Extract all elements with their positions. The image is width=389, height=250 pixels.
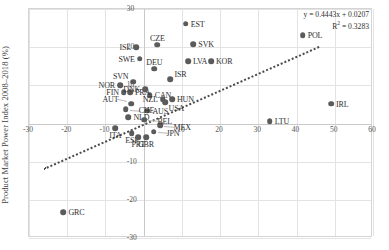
x-axis [29, 124, 371, 125]
x-tick-label: -10 [99, 125, 109, 134]
data-point[interactable] [160, 96, 166, 102]
y-tick-label: 20 [127, 42, 135, 51]
trendline-r2: R2 = 0.3283 [332, 20, 369, 31]
point-label: SWE [118, 54, 134, 63]
x-tick-label: 10 [177, 125, 185, 134]
point-label: GBR [138, 140, 154, 149]
x-tick-label: 40 [292, 125, 300, 134]
data-point[interactable] [155, 42, 161, 48]
x-gridline [373, 9, 374, 236]
y-gridline [29, 85, 371, 86]
point-label: ISR [174, 69, 186, 78]
data-point[interactable] [328, 101, 334, 107]
data-point[interactable] [126, 115, 132, 121]
x-gridline [335, 9, 336, 236]
point-label: CHE [139, 106, 155, 115]
y-tick-label: -20 [127, 194, 137, 203]
x-gridline [67, 9, 68, 236]
x-tick-label: 50 [330, 125, 338, 134]
point-label: NOR [99, 81, 115, 90]
x-gridline [258, 9, 259, 236]
point-label: BEL [157, 117, 172, 126]
point-label: AUS [152, 106, 168, 115]
y-tick-label: 30 [127, 4, 135, 13]
data-point[interactable] [183, 21, 189, 27]
data-point[interactable] [169, 96, 175, 102]
data-point[interactable] [152, 66, 158, 72]
point-label: EST [191, 19, 205, 28]
data-point[interactable] [300, 32, 306, 38]
x-gridline [220, 9, 221, 236]
x-tick-label: -30 [23, 125, 33, 134]
y-axis-title: Product Market Power Index 2008–2018 (%) [0, 0, 12, 250]
y-gridline [29, 162, 371, 163]
point-label: POL [308, 30, 323, 39]
point-label: LTU [275, 117, 289, 126]
y-tick-label: -30 [127, 233, 137, 242]
data-point[interactable] [267, 118, 273, 124]
point-label: NZL [143, 95, 158, 104]
x-gridline [29, 9, 30, 236]
scatter-chart: Product Market Power Index 2008–2018 (%)… [0, 0, 389, 250]
data-point[interactable] [191, 41, 197, 47]
y-gridline [29, 238, 371, 239]
data-point[interactable] [168, 76, 174, 82]
point-label: USA [169, 104, 185, 113]
point-label: GRC [68, 208, 84, 217]
y-tick-label: -10 [127, 156, 137, 165]
data-point[interactable] [117, 83, 123, 89]
y-gridline [29, 200, 371, 201]
x-tick-label: 60 [368, 125, 376, 134]
plot-area: GRCITAESPPRTGBRJPNMEXNLDBELAUSCHEAUTCANF… [28, 8, 372, 237]
data-point[interactable] [142, 117, 148, 123]
point-label: CZE [150, 34, 165, 43]
data-point[interactable] [151, 129, 157, 135]
x-gridline [105, 9, 106, 236]
data-point[interactable] [129, 101, 135, 107]
point-label: ITA [109, 131, 121, 140]
point-label: KOR [216, 56, 232, 65]
data-point[interactable] [123, 106, 129, 112]
y-tick-label: 10 [127, 80, 135, 89]
data-point[interactable] [142, 86, 148, 92]
point-label: IRL [336, 99, 348, 108]
x-tick-label: 20 [215, 125, 223, 134]
point-label: LVA [193, 56, 207, 65]
label-leader-line [117, 99, 127, 102]
x-tick-label: -20 [61, 125, 71, 134]
data-point[interactable] [137, 56, 143, 62]
data-point[interactable] [61, 209, 67, 215]
point-label: SVK [198, 40, 214, 49]
data-point[interactable] [185, 58, 191, 64]
point-label: HUN [177, 95, 194, 104]
point-label: DEU [146, 58, 162, 67]
x-tick-label: 30 [254, 125, 262, 134]
data-point[interactable] [208, 58, 214, 64]
x-gridline [297, 9, 298, 236]
trendline-equation: y = 0.4443x + 0.0207 [303, 10, 369, 19]
